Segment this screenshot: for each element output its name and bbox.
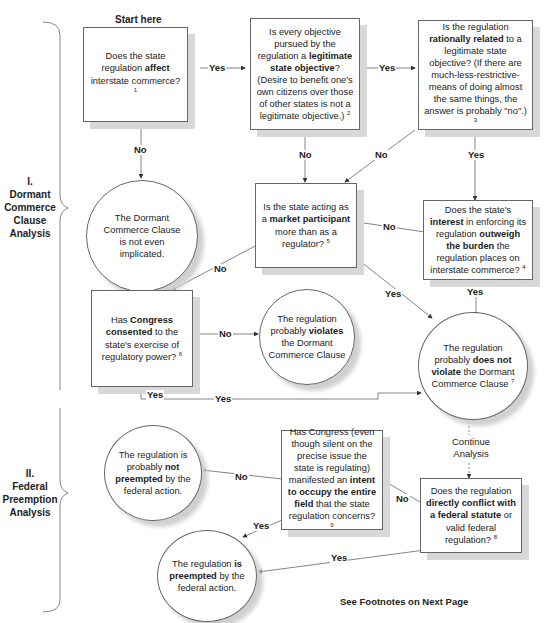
footnote-ref: 8	[494, 534, 497, 540]
edge-label-q6-no: No	[218, 329, 233, 339]
edge-label-q3-yes: Yes	[467, 150, 485, 160]
edge-label-q9-no: No	[234, 472, 249, 482]
footnote-ref: 7	[511, 378, 514, 384]
node-bold-text: market participant	[270, 214, 351, 224]
node-text: The regulation	[172, 559, 234, 569]
node-text: Does the regulation	[431, 486, 512, 496]
node-text: Has	[111, 315, 130, 325]
node-bold-text: rationally related	[429, 34, 503, 44]
footnote-ref: 5	[327, 237, 330, 243]
node-text: the Dormant Commerce Clause	[269, 338, 346, 360]
result-not-preempted: The regulation is probably not preempted…	[104, 425, 202, 521]
footnote-ref: 9	[330, 522, 333, 528]
question-interest-outweigh-burden: Does the state's interest in enforcing i…	[423, 200, 533, 280]
question-direct-conflict-federal: Does the regulation directly conflict wi…	[420, 478, 522, 553]
footnote-ref: 4	[522, 264, 525, 270]
edge-label-q4-yes: Yes	[466, 287, 484, 297]
section-dormant-commerce-label: I. Dormant Commerce Clause Analysis	[0, 175, 60, 240]
edge-label-q3-no: No	[374, 150, 389, 160]
question-rationally-related: Is the regulation rationally related to …	[418, 20, 533, 130]
node-text: to a legitimate state objective? (If the…	[424, 34, 527, 116]
edge-label-q4-no: No	[382, 222, 397, 232]
start-here-label: Start here	[115, 14, 162, 25]
result-not-implicated: The Dormant Commerce Clause is not even …	[86, 180, 198, 292]
question-congress-consented: Has Congress consented to the state's ex…	[91, 290, 193, 387]
edge-label-continue-analysis: Continue Analysis	[444, 436, 498, 460]
section-federal-preemption-label: II. Federal Preemption Analysis	[0, 467, 60, 519]
edge-label-q8-no: No	[395, 494, 410, 504]
result-does-not-violate: The regulation probably does not violate…	[418, 312, 528, 420]
edge-label-q5-yes: Yes	[384, 289, 402, 299]
section-number: II.	[0, 467, 60, 480]
section-title-line: Clause	[0, 214, 60, 227]
result-is-preempted: The regulation is preempted by the feder…	[157, 530, 257, 622]
question-affect-interstate-commerce: Does the state regulation affect interst…	[83, 27, 188, 122]
node-text: interstate commerce?	[91, 76, 180, 86]
node-text: Is the regulation	[442, 22, 508, 32]
node-bold-text: affect	[145, 63, 170, 73]
edge-label-q6-yes-b: Yes	[214, 394, 232, 404]
edge-label-q1-yes: Yes	[208, 63, 226, 73]
edge-label-q6-yes-a: Yes	[146, 390, 164, 400]
edge-label-q9-yes: Yes	[252, 521, 270, 531]
node-text: The Dormant Commerce Clause is not even …	[99, 212, 185, 260]
result-violates: The regulation probably violates the Dor…	[259, 289, 355, 385]
edge-label-q5-no: No	[213, 264, 228, 274]
question-legitimate-state-objective: Is every objective pursued by the regula…	[250, 18, 360, 130]
edge-label-q8-yes: Yes	[330, 553, 348, 563]
footnote-ref: 3	[474, 117, 477, 123]
edge-label-q2-yes: Yes	[378, 63, 396, 73]
section-title-line: Federal	[0, 480, 60, 493]
section-number: I.	[0, 175, 60, 188]
footnote-note: See Footnotes on Next Page	[340, 596, 468, 607]
edge-label-q1-no: No	[133, 145, 148, 155]
node-bold-text: interest	[430, 217, 464, 227]
footnote-ref: 6	[179, 350, 182, 356]
section-title-line: Analysis	[0, 227, 60, 240]
section-title-line: Commerce	[0, 201, 60, 214]
section-title-line: Analysis	[0, 506, 60, 519]
edge-label-q2-no: No	[298, 150, 313, 160]
question-occupy-entire-field: Has Congress (even though silent on the …	[281, 430, 383, 530]
section-title-line: Preemption	[0, 493, 60, 506]
section-title-line: Dormant	[0, 188, 60, 201]
footnote-ref: 2	[347, 110, 350, 116]
node-text: Does the state's	[445, 205, 511, 215]
question-market-participant: Is the state acting as a market particip…	[255, 183, 357, 268]
node-bold-text: violates	[309, 326, 344, 336]
footnote-ref: 1	[134, 86, 137, 92]
